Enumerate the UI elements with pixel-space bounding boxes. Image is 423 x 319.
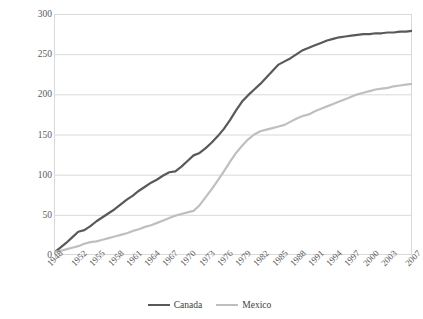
y-tick-label: 150 — [28, 130, 52, 140]
legend-line-swatch — [216, 304, 238, 306]
y-tick-label: 250 — [28, 49, 52, 59]
chart-legend: CanadaMexico — [0, 296, 419, 314]
y-tick-label: 50 — [28, 210, 52, 220]
y-tick-label: 200 — [28, 89, 52, 99]
plot-svg — [54, 14, 412, 255]
gridlines — [54, 55, 412, 255]
series-line-mexico — [54, 84, 412, 252]
legend-line-swatch — [148, 304, 170, 306]
legend-item-canada[interactable]: Canada — [148, 300, 203, 310]
data-series-layer — [54, 31, 412, 253]
legend-label: Canada — [174, 300, 203, 310]
legend-item-mexico[interactable]: Mexico — [216, 300, 271, 310]
plot-area — [54, 14, 412, 255]
legend-label: Mexico — [242, 300, 271, 310]
y-tick-label: 100 — [28, 170, 52, 180]
series-line-canada — [54, 31, 412, 253]
y-tick-label: 300 — [28, 9, 52, 19]
